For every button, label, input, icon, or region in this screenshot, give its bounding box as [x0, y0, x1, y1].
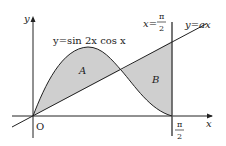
y-axis-label: y: [23, 13, 30, 24]
diagram-canvas: y x O y=sin 2x cos x y=ax x= π 2 π 2 A B: [0, 0, 226, 146]
region-a-label: A: [78, 65, 86, 76]
vertical-line-label-den: 2: [159, 24, 164, 33]
x-axis-label: x: [206, 118, 212, 129]
vertical-line-label-num: π: [159, 12, 164, 21]
origin-label: O: [36, 121, 44, 132]
region-b-label: B: [151, 74, 159, 85]
curve-label: y=sin 2x cos x: [52, 35, 126, 46]
line-label: y=ax: [184, 19, 211, 30]
x-tick-label-den: 2: [177, 132, 182, 141]
x-tick-label-num: π: [177, 120, 182, 129]
y-axis-arrow: [31, 16, 36, 22]
vertical-line-label-lhs: x=: [143, 18, 157, 29]
region-a: [33, 47, 121, 116]
